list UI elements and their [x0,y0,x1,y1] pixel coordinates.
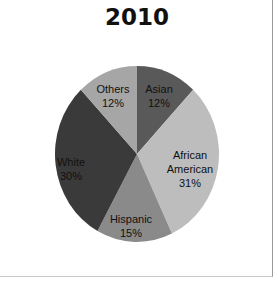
pie-chart: Asian 12% African American 31% Hispanic … [0,0,278,283]
svg-text:American: American [167,163,213,175]
svg-text:12%: 12% [102,97,124,109]
svg-text:Asian: Asian [145,83,173,95]
svg-text:Hispanic: Hispanic [110,213,153,225]
svg-text:31%: 31% [179,177,201,189]
svg-text:15%: 15% [120,227,142,239]
svg-text:Others: Others [96,83,130,95]
svg-text:White: White [57,156,85,168]
svg-text:African: African [173,149,207,161]
svg-text:30%: 30% [60,170,82,182]
svg-text:12%: 12% [148,97,170,109]
